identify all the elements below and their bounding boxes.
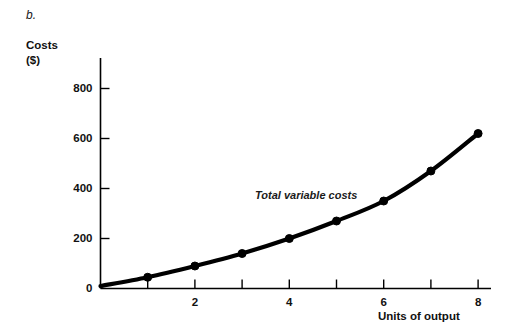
y-tick-label: 600 bbox=[59, 132, 93, 144]
data-point-marker bbox=[474, 130, 482, 138]
data-point-marker bbox=[238, 250, 246, 258]
y-tick-label: 400 bbox=[59, 182, 93, 194]
x-tick-label: 8 bbox=[468, 296, 488, 308]
data-point-marker bbox=[285, 235, 293, 243]
data-point-marker bbox=[427, 167, 435, 175]
data-curve-group bbox=[101, 134, 479, 287]
data-point-marker bbox=[333, 217, 341, 225]
x-tick-label: 4 bbox=[279, 296, 299, 308]
total-variable-costs-curve bbox=[101, 134, 479, 287]
data-point-marker bbox=[144, 273, 152, 281]
chart-figure: b. Costs ($) Units of output Total varia… bbox=[0, 0, 509, 334]
y-tick-label: 800 bbox=[59, 82, 93, 94]
y-tick-label: 200 bbox=[59, 232, 93, 244]
tick-marks-group bbox=[101, 89, 479, 289]
x-tick-label: 2 bbox=[185, 296, 205, 308]
data-points-group bbox=[144, 130, 482, 282]
data-point-marker bbox=[191, 262, 199, 270]
data-point-marker bbox=[380, 197, 388, 205]
y-tick-label: 0 bbox=[59, 282, 93, 294]
x-tick-label: 6 bbox=[374, 296, 394, 308]
